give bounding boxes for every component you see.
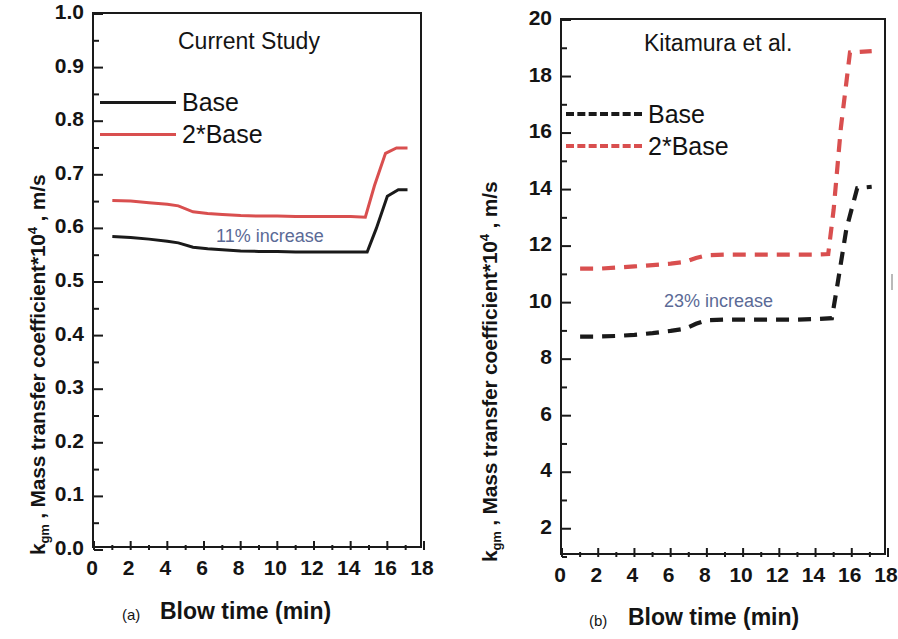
y-tick-label: 14 bbox=[520, 176, 552, 200]
y-tick-label: 0.8 bbox=[38, 107, 84, 131]
legend-b: Base2*Base bbox=[566, 98, 729, 162]
annotation-b: 23% increase bbox=[664, 291, 773, 312]
legend-item-base[interactable]: Base bbox=[566, 98, 729, 130]
legend-swatch-icon bbox=[566, 112, 642, 116]
x-tick-label: 18 bbox=[874, 563, 897, 587]
y-tick-label: 4 bbox=[520, 458, 552, 482]
y-axis-title-b-sub: gm bbox=[489, 531, 504, 550]
x-tick-label: 10 bbox=[264, 556, 287, 580]
x-tick-label: 4 bbox=[159, 556, 171, 580]
y-tick-label: 0.9 bbox=[38, 54, 84, 78]
y-tick-label: 8 bbox=[520, 345, 552, 369]
y-axis-title-b-prefix: k bbox=[478, 551, 501, 562]
panel-letter-b: (b) bbox=[589, 612, 607, 629]
x-tick-label: 8 bbox=[233, 556, 245, 580]
x-tick-label: 0 bbox=[554, 563, 566, 587]
y-tick-label: 0.7 bbox=[38, 161, 84, 185]
x-tick-label: 16 bbox=[838, 563, 861, 587]
legend-item-base[interactable]: Base bbox=[100, 86, 263, 118]
legend-a: Base2*Base bbox=[100, 86, 263, 150]
scan-artifact bbox=[891, 274, 893, 290]
x-tick-label: 0 bbox=[86, 556, 98, 580]
legend-item-label: 2*Base bbox=[182, 122, 263, 147]
y-tick-label: 10 bbox=[520, 289, 552, 313]
x-tick-label: 4 bbox=[627, 563, 639, 587]
y-tick-label: 0.3 bbox=[38, 375, 84, 399]
x-tick-label: 2 bbox=[590, 563, 602, 587]
y-tick-label: 16 bbox=[520, 119, 552, 143]
x-tick-label: 6 bbox=[196, 556, 208, 580]
x-tick-label: 2 bbox=[123, 556, 135, 580]
x-tick-label: 16 bbox=[374, 556, 397, 580]
y-axis-title-b-mid: , Mass transfer coefficient*10 bbox=[478, 241, 501, 531]
y-axis-title-b: kgm , Mass transfer coefficient*104 , m/… bbox=[478, 182, 502, 562]
y-tick-label: 6 bbox=[520, 402, 552, 426]
y-tick-label: 0.5 bbox=[38, 268, 84, 292]
legend-item-2xbase[interactable]: 2*Base bbox=[566, 130, 729, 162]
plot-title-b: Kitamura et al. bbox=[644, 30, 792, 57]
y-tick-label: 20 bbox=[520, 6, 552, 30]
x-tick-label: 12 bbox=[766, 563, 789, 587]
chart-panel-a: kgm , Mass transfer coefficient*104 , m/… bbox=[0, 0, 448, 639]
y-tick-label: 2 bbox=[520, 515, 552, 539]
annotation-a: 11% increase bbox=[216, 226, 324, 247]
chart-panel-b: kgm , Mass transfer coefficient*104 , m/… bbox=[448, 0, 895, 639]
series-line-2xbase bbox=[112, 148, 407, 217]
y-tick-label: 12 bbox=[520, 232, 552, 256]
y-tick-label: 1.0 bbox=[38, 0, 84, 24]
y-tick-label: 0.2 bbox=[38, 429, 84, 453]
y-tick-label: 0.6 bbox=[38, 214, 84, 238]
legend-swatch-icon bbox=[100, 101, 176, 104]
y-tick-label: 0.0 bbox=[38, 536, 84, 560]
panel-letter-a: (a) bbox=[122, 606, 140, 623]
y-axis-title-b-sup: 4 bbox=[477, 234, 492, 241]
legend-item-label: Base bbox=[648, 102, 705, 127]
y-axis-title-b-suffix: , m/s bbox=[478, 182, 501, 235]
x-axis-title-b: Blow time (min) bbox=[628, 604, 799, 631]
x-tick-label: 8 bbox=[699, 563, 711, 587]
y-tick-label: 18 bbox=[520, 63, 552, 87]
legend-swatch-icon bbox=[100, 133, 176, 136]
x-tick-label: 10 bbox=[729, 563, 752, 587]
x-tick-label: 14 bbox=[802, 563, 825, 587]
legend-item-label: Base bbox=[182, 90, 239, 115]
legend-item-label: 2*Base bbox=[648, 134, 729, 159]
legend-swatch-icon bbox=[566, 144, 642, 148]
x-tick-label: 18 bbox=[410, 556, 433, 580]
y-tick-label: 0.1 bbox=[38, 482, 84, 506]
y-tick-label: 0.4 bbox=[38, 322, 84, 346]
x-axis-title-a: Blow time (min) bbox=[160, 598, 331, 625]
x-tick-label: 14 bbox=[337, 556, 360, 580]
x-tick-label: 12 bbox=[300, 556, 323, 580]
x-tick-label: 6 bbox=[663, 563, 675, 587]
series-line-base bbox=[580, 187, 872, 337]
legend-item-2xbase[interactable]: 2*Base bbox=[100, 118, 263, 150]
plot-title-a: Current Study bbox=[178, 28, 320, 55]
